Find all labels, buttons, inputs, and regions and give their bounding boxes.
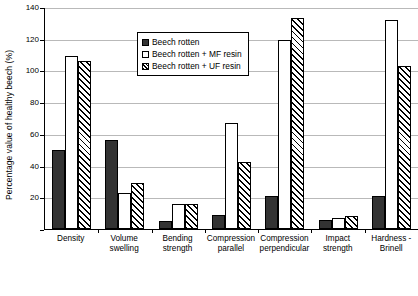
legend-item[interactable]: Beech rotten <box>142 36 242 48</box>
bar <box>345 216 358 229</box>
bar <box>105 140 118 229</box>
bar-group <box>311 8 364 229</box>
bar <box>65 56 78 229</box>
y-tick-label: 120 <box>26 36 39 44</box>
y-tick-label: 20 <box>30 194 39 202</box>
bar-group-bars <box>311 8 364 229</box>
legend: Beech rottenBeech rotten + MF resinBeech… <box>137 32 249 76</box>
legend-swatch-icon <box>142 39 149 46</box>
bar <box>278 40 291 229</box>
x-axis-label-line: strength <box>151 244 204 254</box>
x-axis-label-line: Hardness - <box>365 234 418 244</box>
x-axis-label-line: Brinell <box>365 244 418 254</box>
x-axis-label: Compressionperpendicular <box>258 232 311 272</box>
bar <box>372 196 385 229</box>
x-axis-label-line: Volume <box>97 234 150 244</box>
x-axis-label: Impactstrength <box>311 232 364 272</box>
y-tick-mark <box>40 230 44 231</box>
bar-group-bars <box>258 8 311 229</box>
x-axis-label-line: Compression <box>204 234 257 244</box>
x-axis-label-line: parallel <box>204 244 257 254</box>
y-tick-label: 60 <box>30 131 39 139</box>
legend-label: Beech rotten + UF resin <box>152 62 241 71</box>
x-axis-label-line: strength <box>311 244 364 254</box>
bar <box>185 204 198 229</box>
y-tick-label: 40 <box>30 163 39 171</box>
bar <box>212 215 225 229</box>
bar-group-bars <box>365 8 418 229</box>
bar <box>118 193 131 229</box>
x-axis-label-line: Impact <box>311 234 364 244</box>
x-axis-label: Volumeswelling <box>97 232 150 272</box>
legend-swatch-icon <box>142 51 149 58</box>
y-tick-label: 80 <box>30 99 39 107</box>
bar <box>52 150 65 229</box>
bar <box>131 183 144 229</box>
bar-group-bars <box>45 8 98 229</box>
bar <box>265 196 278 229</box>
bar <box>78 61 91 229</box>
bar <box>225 123 238 229</box>
legend-label: Beech rotten + MF resin <box>152 50 242 59</box>
bar-chart: Percentage value of healthy beech (%) 20… <box>0 0 418 296</box>
legend-item[interactable]: Beech rotten + MF resin <box>142 48 242 60</box>
bar <box>291 18 304 229</box>
bar-group <box>365 8 418 229</box>
plot-wrapper: 20406080100120140 Beech rottenBeech rott… <box>18 8 418 250</box>
bar-group <box>258 8 311 229</box>
x-axis-label: Hardness -Brinell <box>365 232 418 272</box>
legend-item[interactable]: Beech rotten + UF resin <box>142 60 242 72</box>
bar <box>398 66 411 229</box>
x-axis-label-line: Bending <box>151 234 204 244</box>
bar <box>172 204 185 229</box>
bar <box>159 221 172 229</box>
legend-label: Beech rotten <box>152 38 200 47</box>
x-axis-label-line: Density <box>44 234 97 244</box>
bar <box>238 162 251 229</box>
x-axis-label-line: Compression <box>258 234 311 244</box>
x-axis-label: Compressionparallel <box>204 232 257 272</box>
bar-group <box>45 8 98 229</box>
x-axis-label: Bendingstrength <box>151 232 204 272</box>
y-tick-label: 100 <box>26 67 39 75</box>
x-axis-label-line: swelling <box>97 244 150 254</box>
y-axis-title: Percentage value of healthy beech (%) <box>0 0 18 250</box>
y-tick-label: 140 <box>26 4 39 12</box>
bar <box>385 20 398 229</box>
bar <box>319 220 332 230</box>
bar <box>332 218 345 229</box>
legend-swatch-icon <box>142 63 149 70</box>
x-axis-label-line: perpendicular <box>258 244 311 254</box>
y-axis-tick-labels: 20406080100120140 <box>18 8 44 230</box>
x-axis-label: Density <box>44 232 97 272</box>
x-axis-category-labels: DensityVolumeswellingBendingstrengthComp… <box>44 232 418 272</box>
y-axis-title-text: Percentage value of healthy beech (%) <box>4 50 14 200</box>
